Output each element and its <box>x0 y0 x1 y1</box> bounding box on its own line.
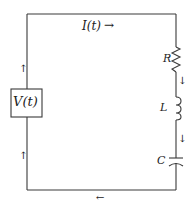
capacitor-label: C <box>157 155 165 166</box>
current-arrow-icon: → <box>104 19 114 31</box>
resistor-symbol <box>172 47 180 72</box>
inductor-label: L <box>160 102 167 113</box>
arrow-left-icon-bottom: ← <box>96 193 104 203</box>
arrow-down-icon-l: ↓ <box>178 134 186 144</box>
current-label: I(t) <box>82 20 101 32</box>
voltage-source-label: V(t) <box>13 95 38 108</box>
resistor-label: R <box>163 53 171 64</box>
arrow-down-icon-r: ↓ <box>178 76 186 86</box>
rlc-circuit-diagram: V(t) I(t) → R L C ↑ ↑ ↓ ↓ ← <box>0 0 194 210</box>
arrow-up-icon-lower: ↑ <box>19 151 27 161</box>
inductor-symbol <box>176 97 181 120</box>
arrow-up-icon-upper: ↑ <box>19 64 27 74</box>
